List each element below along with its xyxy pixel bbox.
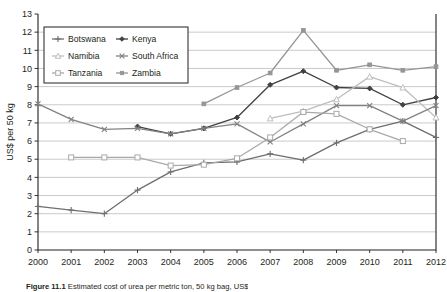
x-tick-label: 2011 xyxy=(393,257,412,267)
data-point-diamond xyxy=(301,69,306,74)
y-axis-ticks: 012345678910111213 xyxy=(22,9,38,255)
data-point-plus xyxy=(300,157,306,163)
data-point-dot xyxy=(335,68,339,72)
data-point-triangle xyxy=(367,74,373,79)
data-point-dot xyxy=(301,28,305,32)
y-tick-label: 7 xyxy=(27,118,32,128)
y-tick-label: 2 xyxy=(27,209,32,219)
x-tick-label: 2004 xyxy=(161,257,181,267)
line-chart: 012345678910111213 200020012002200320042… xyxy=(0,0,447,270)
data-point-diamond xyxy=(334,85,339,90)
data-point-square xyxy=(56,71,61,76)
series-line xyxy=(270,77,436,119)
x-tick-label: 2010 xyxy=(360,257,380,267)
data-point-square xyxy=(334,111,339,116)
legend-label: Tanzania xyxy=(68,68,103,78)
x-tick-label: 2002 xyxy=(94,257,114,267)
legend-label: Kenya xyxy=(132,34,157,44)
data-point-dot xyxy=(368,63,372,67)
y-axis-title: US$ per 50 kg xyxy=(5,103,15,161)
x-axis-ticks: 2000200120022003200420052006200720082009… xyxy=(28,250,446,267)
x-tick-label: 2007 xyxy=(260,257,280,267)
y-tick-label: 0 xyxy=(27,245,32,255)
data-point-dot xyxy=(235,86,239,90)
legend-label: South Africa xyxy=(132,51,179,61)
figure-caption: Figure 11.1 Estimated cost of urea per m… xyxy=(26,282,248,292)
legend-label: Botswana xyxy=(68,34,106,44)
data-point-square xyxy=(400,139,405,144)
y-tick-label: 9 xyxy=(27,82,32,92)
series-line xyxy=(38,121,436,214)
data-point-plus xyxy=(35,203,41,209)
y-tick-label: 3 xyxy=(27,191,32,201)
figure-container: 012345678910111213 200020012002200320042… xyxy=(0,0,447,292)
legend-label: Namibia xyxy=(68,51,100,61)
x-tick-label: 2003 xyxy=(127,257,147,267)
data-point-plus xyxy=(433,134,439,140)
data-point-square xyxy=(102,155,107,160)
data-point-square xyxy=(367,127,372,132)
data-point-plus xyxy=(333,140,339,146)
data-point-plus xyxy=(267,151,273,157)
y-tick-label: 11 xyxy=(23,46,32,56)
data-point-plus xyxy=(68,207,74,213)
legend-label: Zambia xyxy=(132,68,161,78)
data-point-cross xyxy=(301,121,306,126)
data-point-square xyxy=(235,156,240,161)
y-tick-label: 4 xyxy=(27,173,32,183)
series-namibia xyxy=(267,74,439,121)
y-tick-label: 6 xyxy=(27,136,32,146)
x-tick-label: 2005 xyxy=(194,257,214,267)
series-line xyxy=(204,30,436,104)
data-point-diamond xyxy=(434,95,439,100)
figure-caption-text: Estimated cost of urea per metric ton, 5… xyxy=(68,282,249,291)
chart-legend: BotswanaKenyaNamibiaSouth AfricaTanzania… xyxy=(44,27,188,83)
data-point-square xyxy=(135,155,140,160)
x-tick-label: 2000 xyxy=(28,257,48,267)
series-zambia xyxy=(202,28,438,105)
data-point-diamond xyxy=(400,102,405,107)
y-tick-label: 13 xyxy=(22,9,32,19)
figure-caption-label: Figure 11.1 xyxy=(26,282,66,291)
x-tick-label: 2009 xyxy=(326,257,346,267)
x-tick-label: 2006 xyxy=(227,257,247,267)
y-axis-label: US$ per 50 kg xyxy=(5,103,15,161)
data-point-square xyxy=(69,155,74,160)
data-point-square xyxy=(168,163,173,168)
data-point-dot xyxy=(401,68,405,72)
y-tick-label: 8 xyxy=(27,100,32,110)
y-tick-label: 1 xyxy=(27,227,32,237)
y-tick-label: 10 xyxy=(22,64,32,74)
y-tick-label: 5 xyxy=(27,154,32,164)
data-point-square xyxy=(301,110,306,115)
data-point-dot xyxy=(202,102,206,106)
x-tick-label: 2008 xyxy=(293,257,313,267)
x-tick-label: 2012 xyxy=(426,257,446,267)
data-point-dot xyxy=(434,65,438,69)
x-tick-label: 2001 xyxy=(61,257,81,267)
y-tick-label: 12 xyxy=(22,27,32,37)
data-point-square xyxy=(268,135,273,140)
data-point-dot xyxy=(120,71,123,74)
data-point-plus xyxy=(168,169,174,175)
data-point-square xyxy=(201,162,206,167)
data-point-dot xyxy=(268,71,272,75)
